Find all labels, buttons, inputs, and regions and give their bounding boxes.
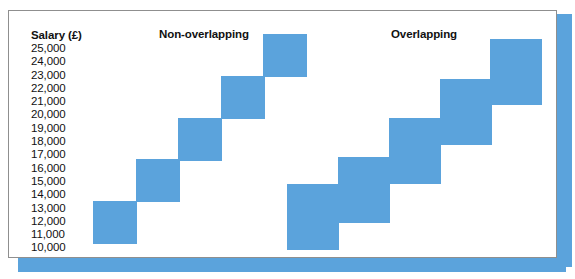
y-axis-tick: 19,000: [31, 122, 109, 135]
data-square: [287, 184, 339, 250]
figure-card: Salary (£) 25,00024,00023,00022,00021,00…: [8, 10, 557, 258]
y-axis-tick: 22,000: [31, 82, 109, 95]
data-square: [93, 201, 137, 244]
plot-area: Salary (£) 25,00024,00023,00022,00021,00…: [9, 11, 556, 257]
group-heading-non-overlapping: Non-overlapping: [159, 28, 249, 40]
y-axis-tick: 18,000: [31, 135, 109, 148]
group-heading-overlapping: Overlapping: [391, 28, 457, 40]
data-square: [440, 79, 492, 145]
y-axis-tick: 24,000: [31, 55, 109, 68]
data-square: [263, 34, 307, 77]
y-axis-tick: 17,000: [31, 148, 109, 161]
y-axis-tick: 23,000: [31, 69, 109, 82]
data-square: [389, 118, 441, 184]
figure-page: Salary (£) 25,00024,00023,00022,00021,00…: [0, 0, 575, 279]
data-square: [338, 157, 390, 223]
y-axis-tick: 20,000: [31, 108, 109, 121]
data-square: [490, 39, 542, 105]
y-axis-title: Salary (£): [31, 29, 109, 42]
y-axis-tick: 21,000: [31, 95, 109, 108]
y-axis-tick: 16,000: [31, 162, 109, 175]
y-axis-tick: 25,000: [31, 42, 109, 55]
data-square: [136, 159, 180, 202]
data-square: [178, 118, 222, 161]
y-axis-tick: 15,000: [31, 175, 109, 188]
data-square: [221, 76, 265, 119]
y-axis-tick: 14,000: [31, 188, 109, 201]
